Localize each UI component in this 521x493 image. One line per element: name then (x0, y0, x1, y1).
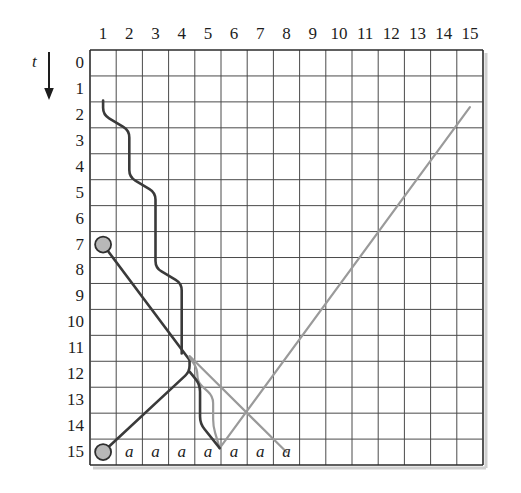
marker-start (95, 237, 111, 253)
marker-layer (0, 0, 521, 493)
marker-end (95, 444, 111, 460)
space-time-diagram: t 123456789101112131415 0123456789101112… (0, 0, 521, 493)
